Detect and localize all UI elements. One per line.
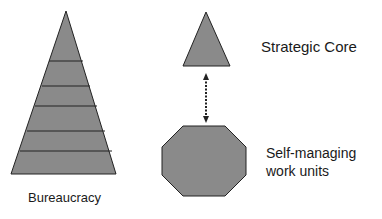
diagram-canvas <box>0 0 382 219</box>
bidirectional-dotted-arrow <box>203 73 209 123</box>
strategic-core-triangle <box>183 12 230 66</box>
strategic-core-label: Strategic Core <box>261 38 357 55</box>
self-managing-label-line2: work units <box>266 163 329 180</box>
self-managing-label-line1: Self-managing <box>266 145 356 162</box>
bureaucracy-label: Bureaucracy <box>28 189 101 206</box>
bureaucracy-pyramid <box>11 11 116 174</box>
self-managing-octagon <box>162 126 246 196</box>
